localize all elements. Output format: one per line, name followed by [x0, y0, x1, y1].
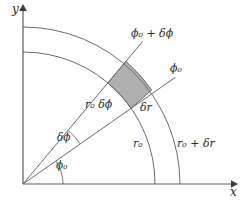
label-angle-dphi: δϕ [57, 132, 70, 143]
x-axis-label: x [230, 186, 237, 198]
label-r0: r₀ [133, 138, 143, 149]
label-delta-r: δr [140, 102, 152, 113]
polar-area-element-figure: y x ϕ₀ + δϕ ϕ₀ r₀ δϕ δr r₀ r₀ + δr δϕ ϕ₀ [0, 0, 250, 203]
diagram-canvas [0, 0, 250, 203]
label-phi0-ray: ϕ₀ [170, 63, 182, 74]
label-phi0-plus-dphi: ϕ₀ + δϕ [131, 28, 173, 39]
y-axis-label: y [12, 3, 19, 15]
label-angle-phi0: ϕ₀ [56, 160, 67, 171]
label-r0-dphi: r₀ δϕ [85, 99, 112, 110]
label-r0-plus-dr: r₀ + δr [177, 138, 215, 149]
y-axis-arrowhead [19, 4, 27, 11]
